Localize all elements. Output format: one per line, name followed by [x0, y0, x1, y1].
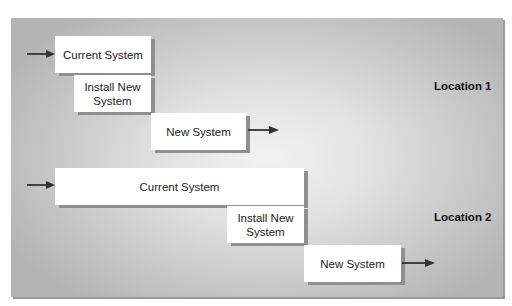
current-system-box-location-1: Current System [55, 36, 151, 73]
arrow-out-of-new-system-2 [401, 258, 436, 268]
location-1-label: Location 1 [434, 80, 492, 92]
new-system-box-location-1: New System [151, 113, 246, 150]
install-label-line2: System [93, 94, 131, 108]
current-system-label: Current System [140, 180, 220, 194]
new-system-label: New System [320, 257, 385, 271]
current-system-label: Current System [63, 48, 143, 62]
install-label-line1: Install New [84, 80, 140, 94]
install-label-line2: System [246, 225, 284, 239]
new-system-label: New System [166, 125, 231, 139]
arrow-into-current-system-2 [26, 180, 56, 190]
new-system-box-location-2: New System [304, 245, 401, 282]
current-system-box-location-2: Current System [55, 168, 304, 205]
location-2-label: Location 2 [434, 211, 492, 223]
install-label-line1: Install New [237, 211, 293, 225]
arrow-into-current-system-1 [26, 49, 56, 59]
arrow-out-of-new-system-1 [247, 125, 280, 135]
install-new-system-box-location-1: Install New System [74, 75, 151, 112]
install-new-system-box-location-2: Install New System [227, 206, 304, 243]
